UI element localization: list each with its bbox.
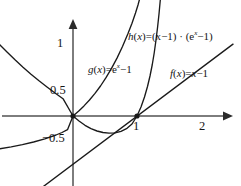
label-h-part1: (x (152, 30, 161, 42)
label-h-part2: −1) · (e (161, 30, 194, 42)
y-tick-label-neg0.5: −0.5 (42, 132, 65, 145)
curve-h-product (0, 0, 161, 133)
y-axis-arrowhead (69, 19, 78, 29)
curve-label-g: g(x)=ex−1 (88, 64, 132, 75)
x-axis-arrowhead (223, 112, 233, 121)
label-h-part3: −1) (197, 30, 212, 42)
label-f-suffix: −1 (196, 67, 208, 79)
curve-label-f: f(x)=x−1 (170, 68, 208, 79)
axes-group (2, 19, 233, 186)
x-tick-label-1: 1 (133, 120, 139, 133)
y-tick-label-1: 1 (57, 37, 63, 50)
function-graph-figure: 1 0.5 −0.5 1 2 h(x)=(x−1) · (ex−1) g(x)=… (0, 0, 241, 186)
curve-label-h: h(x)=(x−1) · (ex−1) (128, 31, 213, 42)
x-tick-label-2: 2 (199, 120, 205, 133)
plot-canvas (0, 0, 241, 186)
y-tick-label-0.5: 0.5 (50, 84, 66, 97)
label-g-suffix: −1 (120, 63, 132, 75)
